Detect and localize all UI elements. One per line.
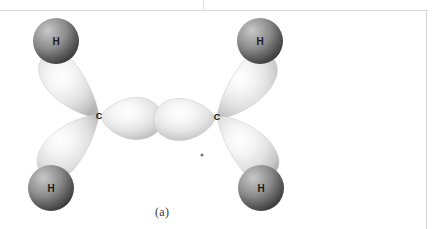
carbon-left: C: [96, 111, 103, 121]
sigma-bond-lobe-right: [154, 98, 216, 140]
hydrogen-bottom-right: H: [238, 165, 284, 211]
figure-page: H H H H C C (a): [0, 0, 435, 229]
carbon-left-label: C: [96, 111, 103, 121]
carbon-right: C: [214, 112, 221, 122]
hydrogen-top-left-label: H: [52, 36, 59, 47]
orbital-diagram: H H H H C C: [0, 0, 435, 229]
hydrogen-bottom-left: H: [28, 165, 74, 211]
hydrogen-bottom-left-label: H: [47, 183, 54, 194]
orbital-lobe-top-right: [217, 53, 277, 118]
figure-caption: (a): [155, 205, 169, 220]
hydrogen-top-left: H: [33, 18, 79, 64]
carbon-right-label: C: [214, 112, 221, 122]
hydrogen-top-right-label: H: [256, 36, 263, 47]
sigma-bond-lobe-left: [100, 97, 162, 139]
hydrogen-top-right: H: [237, 18, 283, 64]
hydrogen-bottom-right-label: H: [257, 183, 264, 194]
scan-speck: [200, 153, 203, 156]
